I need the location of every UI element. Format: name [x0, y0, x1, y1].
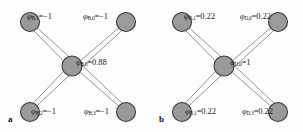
label-value: 0.22: [256, 11, 270, 21]
node-top-right[interactable]: [117, 13, 136, 32]
node-bottom-right[interactable]: [117, 103, 136, 122]
label-node-bottom-left: φD,1=0.22: [185, 107, 216, 116]
edge-bottom-right-inner: [80, 64, 124, 106]
label-node-top-right: φD,0=0.22: [240, 12, 271, 21]
edge-bottom-right-outer: [229, 70, 274, 109]
label-value: 0.88: [92, 57, 106, 67]
label-value: 0.22: [200, 11, 214, 21]
label-value: −1: [100, 106, 109, 116]
edge-bottom-left-outer: [34, 71, 75, 109]
node-top-right[interactable]: [269, 13, 288, 32]
label-node-center: φD,0=1: [230, 58, 251, 67]
label-node-top-right: φB,0=−1: [83, 12, 108, 21]
label-subscript: D,3: [247, 110, 254, 116]
figure-container: φB,1=−1 φB,0=−1 φB,0=0.88 φB,2=−1 φB,3=−…: [0, 0, 303, 132]
edge-bottom-right-outer: [77, 70, 122, 109]
label-node-bottom-right: φD,3=0.22: [242, 107, 273, 116]
panel-letter-a: a: [8, 114, 13, 124]
edge-bottom-right-inner: [232, 64, 276, 106]
label-node-bottom-right: φB,3=−1: [84, 107, 109, 116]
label-subscript: D,1: [189, 15, 196, 21]
edge-bottom-left-outer: [186, 71, 227, 109]
label-node-bottom-left: φB,2=−1: [31, 107, 56, 116]
panel-letter-b: b: [159, 114, 164, 124]
panel-b: φD,1=0.22 φD,0=0.22 φD,0=1 φD,1=0.22 φD,…: [152, 0, 303, 132]
label-value: −1: [99, 11, 108, 21]
label-subscript: D,0: [235, 61, 242, 67]
panel-b-graph: [152, 0, 303, 132]
label-value: −1: [47, 106, 56, 116]
label-node-center: φB,0=0.88: [76, 58, 107, 67]
label-node-top-left: φD,1=0.22: [184, 12, 215, 21]
label-node-top-left: φB,1=−1: [27, 12, 52, 21]
label-value: −1: [43, 11, 52, 21]
label-value: 0.22: [201, 106, 215, 116]
label-value: 1: [246, 57, 250, 67]
label-subscript: D,0: [245, 15, 252, 21]
label-value: 0.22: [258, 106, 272, 116]
label-subscript: D,1: [190, 110, 197, 116]
panel-a: φB,1=−1 φB,0=−1 φB,0=0.88 φB,2=−1 φB,3=−…: [0, 0, 151, 132]
